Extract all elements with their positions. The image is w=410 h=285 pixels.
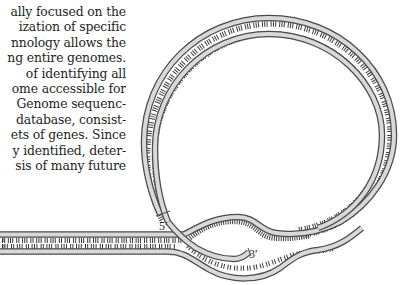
- dna-loop-diagram: 5′ 3′: [0, 0, 410, 285]
- five-prime-label: 5′: [159, 219, 168, 233]
- three-prime-label: 3′: [249, 247, 258, 261]
